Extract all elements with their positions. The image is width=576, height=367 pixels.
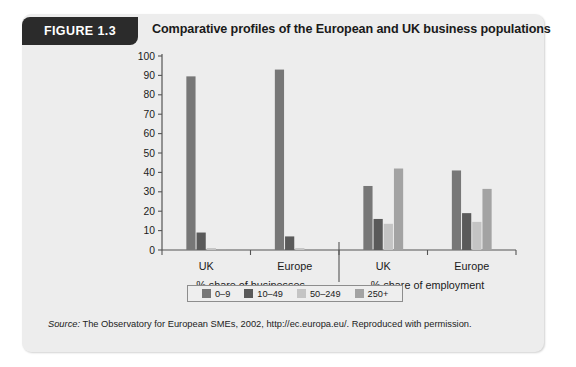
legend-item: 10–49	[244, 289, 283, 299]
y-axis-tick-label: 0	[149, 245, 155, 256]
bar	[305, 249, 314, 250]
bar	[394, 169, 403, 250]
y-axis-tick-label: 60	[144, 128, 156, 139]
x-axis-category-label: Europe	[277, 260, 312, 272]
bar-chart: 0102030405060708090100UKEuropeUKEurope% …	[22, 48, 544, 310]
figure-header: FIGURE 1.3 Comparative profiles of the E…	[22, 14, 544, 48]
bar	[207, 248, 216, 250]
y-axis-tick-label: 80	[144, 89, 156, 100]
bar	[472, 222, 481, 250]
legend-item: 0–9	[202, 289, 230, 299]
bar	[374, 219, 383, 250]
y-axis-tick-label: 40	[144, 167, 156, 178]
legend-swatch-icon	[244, 289, 253, 298]
chart-plot-area: 0102030405060708090100UKEuropeUKEurope% …	[22, 48, 544, 310]
legend-swatch-icon	[297, 289, 306, 298]
y-axis-tick-label: 30	[144, 186, 156, 197]
y-axis-tick-label: 90	[144, 70, 156, 81]
legend-item: 50–249	[297, 289, 341, 299]
bar	[384, 224, 393, 250]
y-axis-tick-label: 70	[144, 109, 156, 120]
figure-number-badge: FIGURE 1.3	[22, 17, 138, 45]
bar	[197, 233, 206, 250]
bar	[217, 249, 226, 250]
x-axis-category-label: UK	[199, 260, 215, 272]
source-text: The Observatory for European SMEs, 2002,…	[80, 319, 472, 329]
legend-label: 50–249	[310, 289, 341, 299]
bar	[295, 248, 304, 250]
legend-label: 0–9	[215, 289, 230, 299]
y-axis-tick-label: 100	[138, 51, 155, 62]
bar	[482, 189, 491, 250]
legend-label: 10–49	[257, 289, 283, 299]
legend-swatch-icon	[202, 289, 211, 298]
legend-swatch-icon	[355, 289, 364, 298]
bar	[363, 186, 372, 250]
bar	[462, 213, 471, 250]
bar	[275, 70, 284, 250]
bar	[452, 170, 461, 250]
y-axis-tick-label: 50	[144, 148, 156, 159]
legend-label: 250+	[368, 289, 389, 299]
y-axis-tick-label: 10	[144, 225, 156, 236]
legend-item: 250+	[355, 289, 389, 299]
source-note: Source: The Observatory for European SME…	[48, 319, 472, 329]
x-axis-category-label: UK	[376, 260, 392, 272]
bar	[186, 76, 195, 250]
y-axis-tick-label: 20	[144, 206, 156, 217]
source-label: Source:	[48, 319, 80, 329]
figure-title: Comparative profiles of the European and…	[152, 22, 536, 36]
figure-panel: FIGURE 1.3 Comparative profiles of the E…	[22, 14, 544, 352]
chart-legend: 0–910–4950–249250+	[187, 285, 403, 302]
x-axis-category-label: Europe	[454, 260, 489, 272]
bar	[285, 236, 294, 250]
